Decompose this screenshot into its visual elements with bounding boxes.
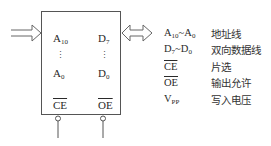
pin-d0: D0	[98, 68, 109, 83]
legend-row-address: A10~A0 地址线	[164, 25, 261, 42]
legend-row-data: D7~D0 双向数据线	[164, 42, 261, 59]
eprom-chip-block: A10 ⋮ A0 D7 ⋮ D0 CE OE	[41, 11, 121, 115]
legend-symbol: A10~A0	[164, 27, 211, 40]
legend-description: 双向数据线	[211, 42, 261, 57]
legend-row-ce: CE 片选	[164, 58, 261, 75]
legend-description: 写入电压	[211, 92, 251, 107]
legend-symbol: CE	[164, 61, 211, 72]
legend-description: 地址线	[211, 26, 241, 41]
pin-ce: CE	[53, 100, 67, 111]
legend-symbol: VPP	[164, 93, 211, 106]
legend-description: 输出允许	[211, 75, 251, 90]
pin-oe: OE	[98, 100, 113, 111]
data-ellipsis: ⋮	[100, 53, 106, 57]
legend-symbol: D7~D0	[164, 43, 211, 56]
legend-symbol: OE	[164, 77, 211, 88]
legend-row-vpp: VPP 写入电压	[164, 91, 261, 108]
oe-inversion-bubble-icon	[101, 116, 106, 121]
pin-legend: A10~A0 地址线 D7~D0 双向数据线 CE 片选 OE 输出允许 VPP…	[164, 25, 261, 108]
legend-row-oe: OE 输出允许	[164, 75, 261, 92]
data-bus-bidirectional-arrow-icon	[122, 25, 152, 41]
legend-description: 片选	[211, 59, 231, 74]
ce-inversion-bubble-icon	[56, 116, 61, 121]
pin-a10: A10	[53, 33, 68, 48]
pin-d7: D7	[98, 33, 109, 48]
pin-a0: A0	[53, 68, 64, 83]
address-bus-arrow-icon	[11, 25, 41, 41]
address-ellipsis: ⋮	[56, 53, 62, 57]
